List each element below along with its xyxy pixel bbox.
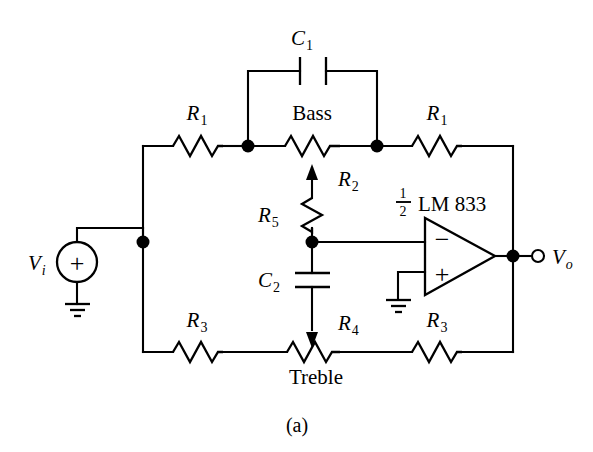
label-opamp-part: 1 2 LM 833 — [396, 186, 486, 219]
label-bass: Bass — [292, 101, 332, 125]
resistor-r1-right — [412, 136, 462, 156]
junction-node-b — [371, 140, 384, 153]
label-opamp-frac-denominator: 2 — [400, 204, 407, 219]
label-r5: R5 — [257, 203, 279, 230]
potentiometer-r4-treble — [287, 342, 340, 362]
label-opamp-frac-numerator: 1 — [400, 186, 407, 201]
wire-c1-right — [326, 71, 377, 146]
junction-node-output — [507, 250, 520, 263]
label-vi: Vi — [28, 251, 46, 278]
potentiometer-r2-bass — [285, 136, 340, 156]
ground-symbol-source — [65, 304, 90, 316]
label-r1-left: R1 — [186, 101, 208, 128]
label-r1-right: R1 — [426, 101, 448, 128]
label-c1: C1 — [291, 26, 313, 53]
label-r2: R2 — [337, 167, 359, 194]
resistor-r5 — [302, 198, 322, 232]
capacitor-c2 — [295, 273, 330, 287]
label-vo: Vo — [552, 245, 573, 272]
junction-node-a — [242, 140, 255, 153]
resistor-r3-right — [412, 342, 462, 362]
label-r4: R4 — [337, 311, 359, 338]
label-opamp-partnumber: LM 833 — [418, 192, 486, 216]
output-terminal-vo — [532, 250, 544, 262]
ground-symbol-opamp — [386, 300, 411, 312]
resistor-r3-left — [173, 342, 223, 362]
label-source-polarity: + — [70, 249, 85, 278]
label-r3-left: R3 — [186, 308, 208, 335]
label-r3-right: R3 — [426, 308, 448, 335]
junction-node-mid — [306, 236, 319, 249]
wire-vi-top-lead — [77, 228, 143, 242]
resistor-r1-left — [173, 136, 223, 156]
label-opamp-inverting-sign: − — [435, 225, 450, 254]
figure-caption: (a) — [286, 414, 308, 437]
junction-node-vi — [137, 236, 150, 249]
label-opamp-noninverting-sign: + — [435, 260, 450, 289]
capacitor-c1 — [300, 57, 326, 85]
label-treble: Treble — [289, 365, 343, 389]
wire-noninverting-ground — [398, 272, 425, 300]
wiper-arrow-bass — [306, 164, 318, 180]
label-c2: C2 — [258, 268, 280, 295]
circuit-figure: C1 Bass R1 R1 R2 R5 C2 R3 R3 R4 Treble 1… — [0, 0, 593, 452]
schematic-svg: C1 Bass R1 R1 R2 R5 C2 R3 R3 R4 Treble 1… — [0, 0, 593, 452]
